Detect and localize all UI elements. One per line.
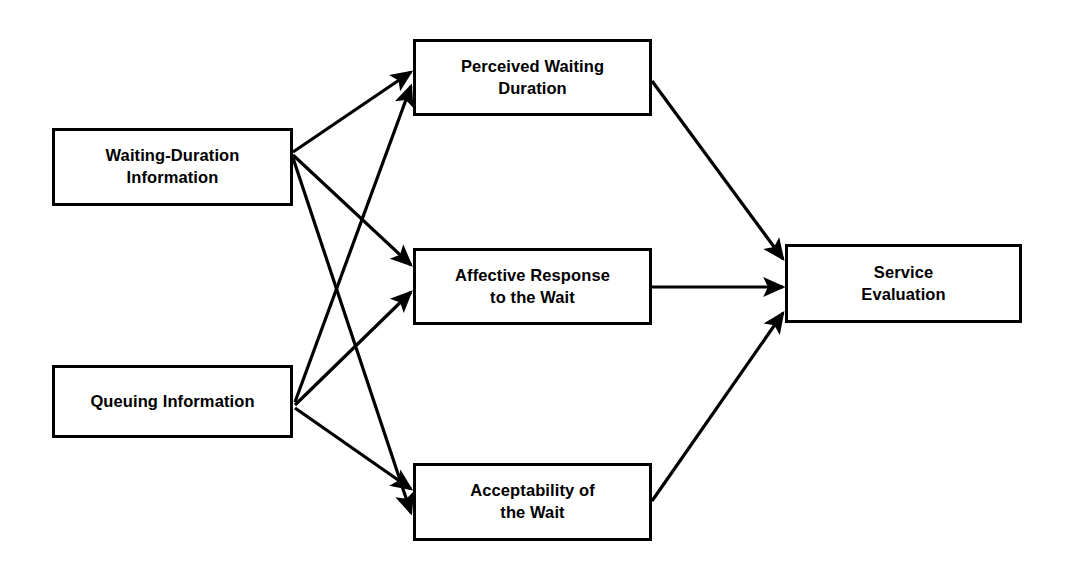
conceptual-model-diagram: Waiting-Duration Information Queuing Inf… xyxy=(0,0,1075,581)
node-service-evaluation[interactable]: Service Evaluation xyxy=(785,244,1022,323)
node-waiting-duration-information[interactable]: Waiting-Duration Information xyxy=(52,128,293,206)
node-label: Service Evaluation xyxy=(855,262,951,306)
node-label: Queuing Information xyxy=(84,391,260,413)
edge-wdi-to-pwd xyxy=(293,72,411,152)
node-label: Affective Response to the Wait xyxy=(449,265,616,309)
node-affective-response-to-the-wait[interactable]: Affective Response to the Wait xyxy=(413,248,652,325)
node-perceived-waiting-duration[interactable]: Perceived Waiting Duration xyxy=(413,39,652,116)
edge-aw-to-se xyxy=(652,313,783,501)
node-acceptability-of-the-wait[interactable]: Acceptability of the Wait xyxy=(413,463,652,541)
edge-qi-to-aw xyxy=(295,408,411,489)
node-label: Perceived Waiting Duration xyxy=(455,56,610,100)
node-queuing-information[interactable]: Queuing Information xyxy=(52,365,293,438)
edge-pwd-to-se xyxy=(652,81,783,259)
edge-qi-to-pwd xyxy=(295,86,411,402)
node-label: Waiting-Duration Information xyxy=(100,145,246,189)
edge-qi-to-arw xyxy=(295,292,411,405)
node-label: Acceptability of the Wait xyxy=(464,480,600,524)
